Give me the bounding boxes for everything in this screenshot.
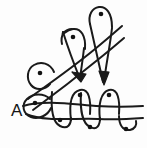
node-left-upper [38, 71, 43, 76]
arrow-right-down [99, 71, 109, 85]
knot-diagram-figure: A [0, 0, 147, 148]
node-upper-mid [71, 35, 76, 40]
node-right-lower [88, 125, 93, 130]
node-top-right [99, 12, 104, 17]
node-far-right [124, 127, 129, 132]
node-mid-lower [58, 118, 63, 123]
knot-diagram-canvas: A [0, 0, 147, 148]
node-mid-upper [78, 93, 83, 98]
node-left-lower [33, 101, 38, 106]
figure-label-a: A [11, 101, 23, 120]
loop-left-upper [28, 63, 54, 89]
loop-mid-lower [52, 92, 71, 127]
arrow-center-down-right [72, 72, 86, 82]
loop-top-right [89, 7, 112, 27]
node-right-upper [107, 93, 112, 98]
